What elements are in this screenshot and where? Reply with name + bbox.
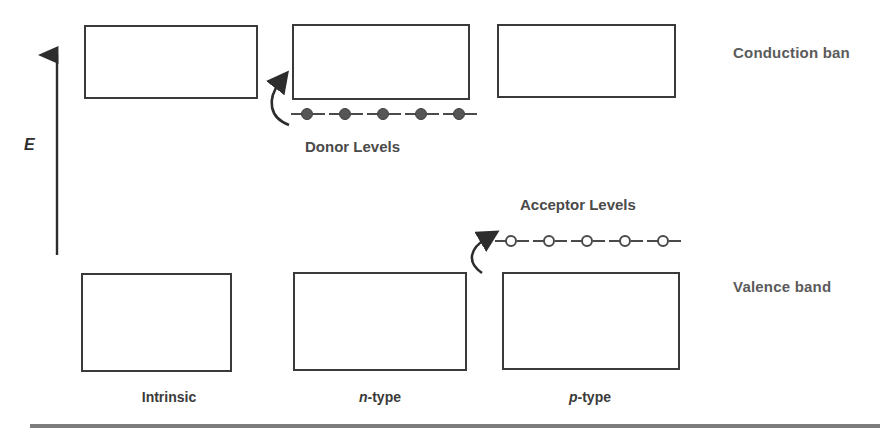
energy-axis-label: E [24, 136, 35, 154]
column-label-n-type: n-type [325, 389, 435, 405]
footer-divider [30, 424, 880, 428]
column-label-intrinsic: Intrinsic [109, 389, 229, 405]
donor-level-dash-right-3 [389, 113, 401, 115]
valence-band-p-type [502, 272, 680, 370]
donor-level-node-5 [453, 108, 465, 120]
semiconductor-band-diagram: E Donor Levels Acceptor Levels Conductio… [0, 0, 893, 441]
donor-level-node-2 [339, 108, 351, 120]
column-label-p-type-rest: -type [578, 389, 611, 405]
column-label-n-type-italic: n [359, 389, 368, 405]
acceptor-level-node-5 [657, 235, 669, 247]
conduction-band-intrinsic [84, 25, 258, 99]
valence-band-intrinsic [81, 273, 232, 372]
acceptor-levels-label: Acceptor Levels [520, 196, 636, 213]
donor-level-dash-right-2 [351, 113, 363, 115]
donor-level-dash-right-1 [313, 113, 325, 115]
acceptor-level-dash-right-2 [555, 240, 567, 242]
acceptor-level-dash-right-4 [631, 240, 643, 242]
conduction-band-n-type [292, 24, 470, 100]
conduction-band-label: Conduction ban [733, 44, 850, 61]
column-label-n-type-rest: -type [368, 389, 401, 405]
acceptor-levels-row [494, 233, 684, 249]
donor-level-node-1 [301, 108, 313, 120]
acceptor-excitation-arrow [472, 238, 487, 273]
acceptor-level-node-1 [505, 235, 517, 247]
donor-level-dash-right-5 [465, 113, 477, 115]
acceptor-level-node-2 [543, 235, 555, 247]
column-label-p-type: p-type [535, 389, 645, 405]
donor-levels-row [290, 106, 480, 122]
donor-level-node-4 [415, 108, 427, 120]
column-label-intrinsic-rest: Intrinsic [142, 389, 196, 405]
donor-excitation-arrow [272, 82, 289, 125]
acceptor-level-node-3 [581, 235, 593, 247]
donor-level-node-3 [377, 108, 389, 120]
acceptor-level-node-4 [619, 235, 631, 247]
acceptor-level-dash-right-1 [517, 240, 529, 242]
acceptor-level-dash-right-5 [669, 240, 681, 242]
acceptor-level-dash-right-3 [593, 240, 605, 242]
column-label-p-type-italic: p [569, 389, 578, 405]
donor-level-dash-right-4 [427, 113, 439, 115]
valence-band-n-type [293, 272, 467, 371]
conduction-band-p-type [497, 24, 676, 98]
valence-band-label: Valence band [733, 278, 831, 295]
donor-levels-label: Donor Levels [305, 138, 400, 155]
